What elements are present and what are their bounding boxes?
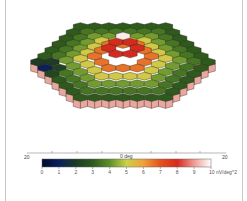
hexagon-field [31, 23, 216, 109]
hex-cell [116, 32, 130, 40]
hex-cell [123, 87, 137, 95]
colorbar-tick-label: 7 [159, 170, 162, 175]
hex-cell [95, 87, 109, 95]
colorbar-tick-label: 10 nV/deg^2 [209, 170, 237, 175]
hex-cell [137, 72, 151, 80]
hex-cell [73, 93, 87, 101]
hex-cell [102, 93, 116, 101]
colorbar-tick-label: 5 [125, 170, 128, 175]
hex-cell [109, 50, 123, 58]
scale-right-label: 20 [222, 155, 228, 160]
hex-cell [123, 72, 137, 80]
hex-cell [130, 64, 144, 72]
hex-cell [144, 80, 158, 88]
hex-cell [102, 64, 116, 72]
colorbar-tick-label: 6 [142, 170, 145, 175]
hex-cell [137, 87, 151, 95]
scale-left-label: 20 [24, 155, 30, 160]
hex-cell [102, 80, 116, 88]
colorbar-tick-label: 3 [91, 170, 94, 175]
hex-cell [95, 72, 109, 80]
colorbar-tick-label: 1 [58, 170, 61, 175]
hex-cell [130, 80, 144, 88]
hex-cell [116, 80, 130, 88]
colorbar-tick-label: 2 [74, 170, 77, 175]
hex-cell [87, 93, 101, 101]
colorbar [42, 159, 211, 167]
colorbar-tick-label: 4 [108, 170, 111, 175]
scale-center-label: 0 deg [120, 154, 133, 159]
hex-cell [116, 64, 130, 72]
colorbar-tick-label: 9 [193, 170, 196, 175]
colorbar-tick-label: 8 [176, 170, 179, 175]
hex-cell [109, 87, 123, 95]
colorbar-tick-label: 0 [41, 170, 44, 175]
hex-cell [109, 72, 123, 80]
hex-cell [151, 87, 165, 95]
hex-cell [87, 80, 101, 88]
hex-cell [144, 93, 158, 101]
hex-cell [116, 93, 130, 101]
hex-cell [130, 93, 144, 101]
hex-cell [159, 93, 173, 101]
hex-cell [80, 87, 94, 95]
hex-cell [123, 50, 137, 58]
